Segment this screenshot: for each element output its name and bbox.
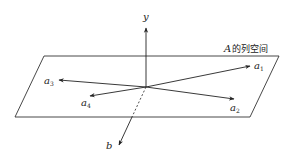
- vector-a2: a 2: [146, 87, 240, 114]
- plane-label-text: 的列空间: [232, 43, 268, 54]
- vector-y: y: [142, 11, 149, 87]
- vector-b-label: b: [106, 140, 112, 151]
- plane-label: A 的列空间: [223, 43, 268, 54]
- column-space-diagram: A 的列空间 y a 1 a 2 a 3 a 4 b: [0, 0, 291, 161]
- vector-a4: a 4: [81, 87, 146, 109]
- vector-a4-subscript: 4: [87, 102, 91, 109]
- vector-a3-subscript: 3: [50, 80, 54, 87]
- vector-b: b: [106, 87, 146, 151]
- vector-a2-subscript: 2: [236, 107, 240, 114]
- vector-a1: a 1: [146, 60, 264, 87]
- plane-label-var: A: [223, 43, 231, 54]
- vector-y-label: y: [142, 11, 149, 22]
- vector-a3: a 3: [44, 75, 146, 87]
- vector-a1-subscript: 1: [260, 65, 264, 72]
